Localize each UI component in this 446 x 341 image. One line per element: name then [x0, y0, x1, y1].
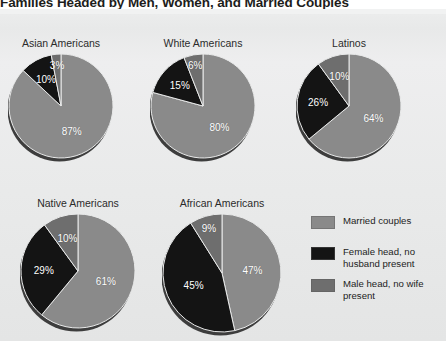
pie-slice-value-label: 45%	[184, 279, 204, 290]
pie-slice-value-label: 64%	[363, 112, 383, 123]
legend-label-married: Married couples	[343, 215, 441, 227]
legend-label-male-head: Male head, no wife present	[343, 278, 441, 301]
legend: Married couples Female head, no husband …	[311, 215, 441, 310]
pie-slice-value-label: 80%	[209, 122, 229, 133]
legend-item-female-head: Female head, no husband present	[311, 246, 441, 269]
pie-slice-value-label: 3%	[50, 59, 64, 70]
pie-graphic	[150, 53, 256, 165]
pie-slice-value-label: 10%	[329, 71, 349, 82]
pie-slice-value-label: 47%	[242, 264, 262, 275]
pie-chart: African Americans47%45%9%	[162, 197, 282, 333]
pie-chart-title: White Americans	[150, 37, 256, 49]
pie-slice-value-label: 6%	[188, 60, 202, 71]
legend-swatch-female-head	[311, 247, 335, 260]
legend-item-married: Married couples	[311, 215, 441, 237]
pie-slice-value-label: 10%	[36, 73, 56, 84]
pie-slice-value-label: 87%	[62, 125, 82, 136]
chart-panel: Asian Americans87%10%3%White Americans80…	[0, 9, 446, 341]
pie-chart-title: African Americans	[162, 197, 282, 209]
pie-slice-value-label: 10%	[57, 233, 77, 244]
pie-slice-value-label: 61%	[96, 276, 116, 287]
pie-chart: Asian Americans87%10%3%	[8, 37, 114, 159]
legend-swatch-male-head	[311, 279, 335, 292]
pie-slice-value-label: 15%	[170, 80, 190, 91]
legend-label-female-head: Female head, no husband present	[343, 246, 441, 269]
pie-chart: Latinos64%26%10%	[296, 37, 402, 159]
pie-slice-value-label: 9%	[202, 222, 216, 233]
pie-slice-value-label: 29%	[34, 264, 54, 275]
pie-chart-title: Native Americans	[20, 197, 136, 209]
legend-swatch-married	[311, 216, 335, 229]
pie-graphic	[296, 53, 402, 165]
pie-chart: Native Americans61%29%10%	[20, 197, 136, 329]
pie-slice-value-label: 26%	[308, 97, 328, 108]
pie-chart: White Americans80%15%6%	[150, 37, 256, 159]
chart-figure: Families Headed by Men, Women, and Marri…	[0, 0, 446, 341]
legend-item-male-head: Male head, no wife present	[311, 278, 441, 301]
panel-top-band	[0, 9, 446, 14]
pie-chart-title: Latinos	[296, 37, 402, 49]
pie-chart-title: Asian Americans	[8, 37, 114, 49]
pie-graphic	[162, 213, 282, 339]
